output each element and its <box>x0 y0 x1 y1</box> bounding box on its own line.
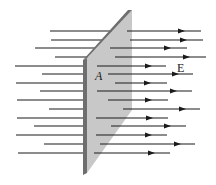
arrowhead-icon <box>145 64 152 69</box>
arrowhead-icon <box>145 98 152 103</box>
arrowhead-icon <box>170 89 177 94</box>
arrowhead-icon <box>146 116 153 121</box>
field-label: E <box>177 61 184 75</box>
arrowhead-icon <box>183 55 190 60</box>
area-label: A <box>94 69 103 83</box>
arrowhead-icon <box>174 142 181 147</box>
arrowhead-icon <box>180 38 187 43</box>
arrowhead-icon <box>179 107 186 112</box>
plate-edge <box>83 58 87 175</box>
arrowhead-icon <box>164 46 171 51</box>
arrowhead-icon <box>178 29 185 34</box>
arrowhead-icon <box>164 124 171 129</box>
flat-surface-plate <box>83 10 132 175</box>
diagram-svg: A E <box>0 0 216 185</box>
arrowhead-icon <box>145 133 152 138</box>
arrowhead-icon <box>144 81 151 86</box>
arrowhead-icon <box>148 151 155 156</box>
electric-flux-diagram: A E <box>0 0 216 185</box>
